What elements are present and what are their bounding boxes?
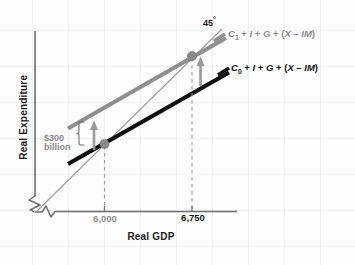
equilibrium-dot-new bbox=[187, 51, 196, 60]
c0-government-symbol: G bbox=[266, 62, 273, 73]
x-axis-break-icon bbox=[35, 206, 57, 217]
initial-schedule-label: C0 + I + G + (X – IM) bbox=[231, 63, 318, 75]
expenditure-schedule-chart: Real Expenditure Real GDP 6,000 6,750 45… bbox=[0, 0, 355, 265]
y-axis-title: Real Expenditure bbox=[19, 57, 30, 177]
shift-brace bbox=[77, 122, 84, 145]
c1-subscript: 1 bbox=[235, 34, 239, 41]
y-axis-break-icon bbox=[29, 196, 40, 210]
shift-arrow-right-icon bbox=[197, 57, 205, 87]
forty-five-degree-label: 45° bbox=[203, 16, 216, 28]
equilibrium-dot-initial bbox=[100, 139, 109, 148]
c0-symbol: C bbox=[231, 62, 238, 73]
c1-government-symbol: G bbox=[263, 28, 270, 39]
x-tick-label-6750: 6,750 bbox=[170, 213, 216, 223]
degree-sign: ° bbox=[213, 15, 216, 24]
initial-expenditure-line bbox=[68, 73, 229, 165]
c0-investment-symbol: I bbox=[253, 62, 256, 73]
c0-exports-symbol: X bbox=[287, 62, 293, 73]
shift-amount-label: $300billion bbox=[44, 134, 78, 153]
shifted-schedule-label: C1 + I + G + (X – IM) bbox=[228, 29, 315, 41]
c0-imports-symbol: IM bbox=[304, 62, 315, 73]
y-axis-lower-stub bbox=[31, 210, 34, 212]
c1-exports-symbol: X bbox=[284, 28, 290, 39]
forty-five-degree-value: 45 bbox=[203, 18, 213, 28]
c1-symbol: C bbox=[228, 28, 235, 39]
c0-subscript: 0 bbox=[238, 68, 242, 75]
shift-amount-unit: billion bbox=[44, 142, 71, 152]
c1-investment-symbol: I bbox=[250, 28, 253, 39]
x-tick-label-6000: 6,000 bbox=[82, 214, 128, 224]
c1-imports-symbol: IM bbox=[301, 28, 312, 39]
shifted-expenditure-line bbox=[68, 38, 226, 129]
x-axis-title: Real GDP bbox=[96, 232, 206, 243]
